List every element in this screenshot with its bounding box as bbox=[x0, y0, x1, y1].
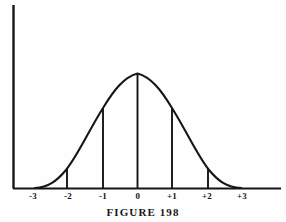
figure-caption: FIGURE 198 bbox=[0, 206, 286, 218]
x-axis-label-zero: 0 bbox=[125, 191, 151, 201]
x-axis-label-minus-2: -2 bbox=[55, 191, 81, 201]
x-axis-label-plus-3: +3 bbox=[229, 191, 255, 201]
x-axis-label-plus-1: +1 bbox=[159, 191, 185, 201]
x-axis-label-minus-3: -3 bbox=[20, 191, 46, 201]
normal-curve-plot bbox=[0, 0, 286, 222]
x-axis-label-minus-1: -1 bbox=[90, 191, 116, 201]
x-axis-label-plus-2: +2 bbox=[194, 191, 220, 201]
figure-container: -3 -2 -1 0 +1 +2 +3 FIGURE 198 bbox=[0, 0, 286, 222]
